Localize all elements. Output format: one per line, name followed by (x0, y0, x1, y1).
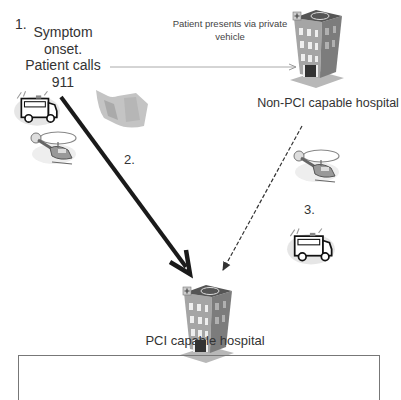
caption-box (18, 355, 380, 400)
stretcher-sheet-icon (96, 90, 148, 128)
pci-hospital-building-icon (180, 285, 234, 363)
ambulance-transfer-icon (287, 229, 335, 265)
non-pci-hospital-label: Non-PCI capable hospital (255, 96, 401, 110)
pci-hospital-label: PCI capable hospital (130, 333, 280, 348)
private-vehicle-label: Patient presents via private vehicle (145, 17, 315, 43)
helicopter-transfer-icon (294, 150, 339, 182)
step-3-number: 3. (304, 202, 315, 217)
helicopter-icon (31, 132, 76, 164)
private-line-1: Patient presents via private (145, 17, 315, 30)
symptom-onset-label: Symptom onset. Patient calls 911 (22, 24, 104, 90)
step-2-number: 2. (124, 152, 135, 167)
onset-line-2: onset. (22, 41, 104, 58)
ambulance-icon (14, 91, 60, 125)
private-line-2: vehicle (145, 30, 315, 43)
onset-line-3: Patient calls (22, 57, 104, 74)
onset-line-1: Symptom (22, 24, 104, 41)
onset-line-4: 911 (22, 74, 104, 91)
